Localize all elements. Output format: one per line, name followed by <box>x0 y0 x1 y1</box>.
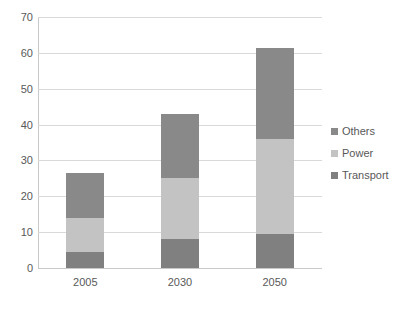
y-tick-label: 40 <box>3 120 33 131</box>
legend-label: Others <box>342 125 375 137</box>
legend-swatch-icon <box>331 128 338 135</box>
bar-segment-power <box>256 139 294 234</box>
bar-group <box>66 173 104 268</box>
bar-segment-others <box>161 114 199 179</box>
bar-segment-transport <box>66 252 104 268</box>
bar-segment-others <box>256 48 294 139</box>
x-tick-label: 2005 <box>55 276 115 288</box>
y-tick-label: 50 <box>3 84 33 95</box>
x-tick-label: 2050 <box>245 276 305 288</box>
legend-swatch-icon <box>331 150 338 157</box>
legend-swatch-icon <box>331 172 338 179</box>
y-axis-tick-labels: 706050403020100 <box>0 17 33 268</box>
legend-item-transport[interactable]: Transport <box>331 164 403 186</box>
gridline-70 <box>38 17 322 18</box>
y-tick-label: 30 <box>3 155 33 166</box>
y-tick-label: 60 <box>3 48 33 59</box>
bar-segment-others <box>66 173 104 218</box>
chart-legend: OthersPowerTransport <box>331 120 403 186</box>
legend-label: Power <box>342 147 373 159</box>
bar-group <box>161 114 199 268</box>
bar-segment-transport <box>161 239 199 268</box>
bar-group <box>256 47 294 268</box>
legend-label: Transport <box>342 169 389 181</box>
plot-area <box>38 17 322 268</box>
y-tick-label: 0 <box>3 263 33 274</box>
legend-item-power[interactable]: Power <box>331 142 403 164</box>
gridline-0 <box>38 268 322 269</box>
x-axis-tick-labels: 200520302050 <box>38 276 322 294</box>
bar-segment-power <box>161 178 199 239</box>
legend-item-others[interactable]: Others <box>331 120 403 142</box>
x-tick-label: 2030 <box>150 276 210 288</box>
y-tick-label: 20 <box>3 191 33 202</box>
stacked-bar-chart: 706050403020100 200520302050 OthersPower… <box>0 0 405 310</box>
bar-segment-power <box>66 218 104 252</box>
y-tick-label: 70 <box>3 12 33 23</box>
bar-segment-transport <box>256 234 294 268</box>
y-tick-label: 10 <box>3 227 33 238</box>
